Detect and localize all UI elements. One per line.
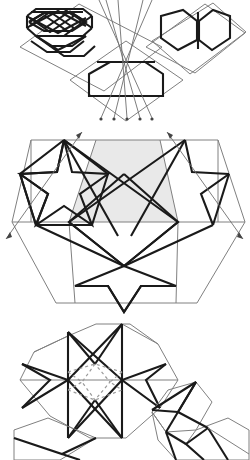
construction-rays-top [99,0,154,121]
adjoining-tiles-lower-right [152,382,249,460]
panel-top-hexagon-tiles [0,0,249,128]
hidden-construction-lines [68,364,122,400]
eight-point-star [22,324,166,438]
panel-bottom-star-rosette [0,320,249,460]
motif-left-interlace [27,9,95,56]
adjoining-tile-lower-left [14,418,96,460]
motif-bottom-hexagon [89,62,163,96]
panel-middle-hexagon-star [0,126,249,316]
motif-right-double-hexagon [161,10,230,50]
